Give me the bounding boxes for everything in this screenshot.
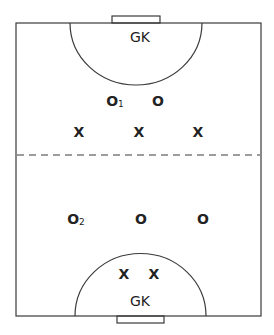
player-o2: O2 (67, 211, 85, 227)
o2-label: O (67, 211, 79, 227)
o1-subscript: 1 (118, 99, 124, 109)
bottom-gk-label: GK (130, 293, 151, 309)
player-o-top: O (152, 93, 164, 109)
netball-court-diagram: GK O1 O X X X O2 O O X X GK (0, 0, 274, 335)
player-x-bottom-right: X (149, 266, 160, 282)
player-x-top-left: X (74, 124, 85, 140)
court-outline (16, 23, 261, 316)
player-o-bottom-right: O (197, 211, 209, 227)
o2-subscript: 2 (79, 217, 85, 227)
top-gk-label: GK (130, 29, 151, 45)
player-o-bottom-center: O (135, 211, 147, 227)
top-goal-box (112, 16, 160, 23)
player-x-bottom-left: X (119, 266, 130, 282)
player-x-top-center: X (134, 124, 145, 140)
o1-label: O (106, 93, 118, 109)
bottom-goal-box (117, 316, 164, 323)
player-x-top-right: X (193, 124, 204, 140)
player-o1: O1 (106, 93, 124, 109)
